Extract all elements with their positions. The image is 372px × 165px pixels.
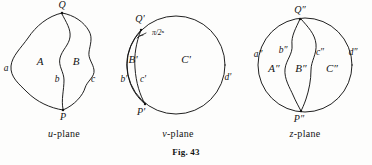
arc-label-a: a — [4, 63, 9, 73]
v-plane-panel: Q' P' π/2ⁿ b' c' d' B' C' — [121, 13, 233, 117]
region-A-double-prime: A″ — [267, 62, 280, 74]
u-plane-inner-arc-b — [60, 14, 71, 109]
u-plane-caption-suffix: -plane — [53, 128, 80, 139]
v-plane-angle-annotation: π/2ⁿ — [152, 28, 165, 37]
arc-label-b-prime: b' — [121, 74, 129, 84]
region-B-prime: B' — [128, 53, 138, 65]
region-B-double-prime: B″ — [295, 62, 307, 74]
z-plane-caption-suffix: -plane — [294, 128, 321, 139]
v-plane-point-Q-prime-marker — [140, 29, 142, 31]
u-plane-caption: u-plane — [0, 128, 128, 139]
v-plane-angle-leader — [140, 33, 146, 36]
point-Q-prime: Q' — [135, 13, 145, 24]
point-P-double-prime: P″ — [293, 113, 305, 124]
arc-label-d-prime: d' — [225, 72, 233, 82]
point-P: P — [59, 111, 66, 122]
region-C-prime: C' — [181, 53, 191, 65]
region-A: A — [36, 55, 44, 67]
arc-label-b: b — [55, 74, 60, 84]
v-plane-point-P-prime-marker — [144, 103, 146, 105]
arc-label-c-double-prime: c″ — [316, 47, 325, 57]
arc-label-c-prime: c' — [140, 74, 147, 84]
arc-label-c: c — [91, 74, 96, 84]
u-plane-point-Q-marker — [61, 12, 64, 15]
point-Q: Q — [58, 0, 66, 10]
z-plane-caption: z-plane — [253, 128, 357, 139]
v-plane-angle-arc — [137, 35, 143, 38]
z-plane-panel: Q″ P″ a″ b″ c″ d″ A″ B″ C″ — [254, 4, 359, 124]
figure-caption: Fig. 43 — [0, 147, 372, 157]
arc-label-d-double-prime: d″ — [349, 47, 359, 57]
z-plane-point-P-double-prime-marker — [300, 110, 302, 112]
v-plane-caption-suffix: -plane — [167, 128, 194, 139]
arc-label-a-double-prime: a″ — [254, 49, 264, 59]
region-B: B — [73, 55, 80, 67]
point-Q-double-prime: Q″ — [294, 4, 306, 15]
point-P-prime: P' — [136, 106, 146, 117]
z-plane-point-Q-double-prime-marker — [299, 18, 301, 20]
region-C-double-prime: C″ — [326, 62, 338, 74]
u-plane-panel: Q P a b c A B — [4, 0, 96, 122]
arc-label-b-double-prime: b″ — [279, 45, 289, 55]
v-plane-caption: v-plane — [128, 128, 228, 139]
figure-artwork: Q P a b c A B Q' P' π/2ⁿ — [0, 0, 372, 165]
figure-container: Q P a b c A B Q' P' π/2ⁿ — [0, 0, 372, 165]
